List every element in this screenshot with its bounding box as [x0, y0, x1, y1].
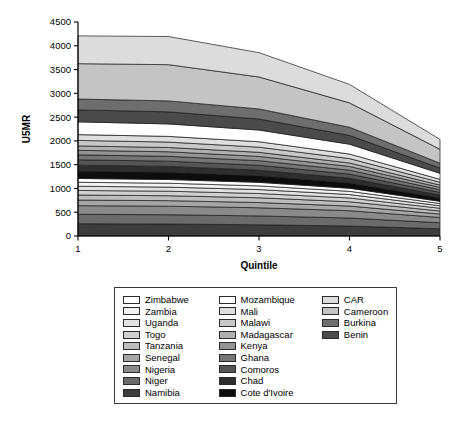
x-axis-title: Quintile — [240, 260, 278, 271]
legend-item-ghana[interactable]: Ghana — [219, 352, 322, 364]
legend-item-cameroon[interactable]: Cameroon — [322, 306, 392, 318]
x-tick-label: 5 — [437, 243, 442, 254]
legend-item-madagascar[interactable]: Madagascar — [219, 329, 322, 341]
legend-swatch-icon — [123, 377, 140, 385]
legend-item-uganda[interactable]: Uganda — [123, 317, 219, 329]
legend-item-burkina[interactable]: Burkina — [322, 317, 392, 329]
chart-page: 0500100015002000250030003500400045001234… — [0, 0, 469, 424]
legend-swatch-icon — [322, 296, 339, 304]
legend-swatch-icon — [219, 296, 236, 304]
y-tick-label: 3000 — [50, 88, 71, 99]
legend-item-label: Zimbabwe — [145, 295, 189, 305]
legend-swatch-icon — [219, 331, 236, 339]
legend-item-label: Cote d'Ivoire — [241, 388, 294, 398]
legend-item-label: Mali — [241, 307, 258, 317]
legend-item-chad[interactable]: Chad — [219, 375, 322, 387]
y-tick-label: 4500 — [50, 16, 71, 27]
legend-swatch-icon — [219, 319, 236, 327]
y-axis-title: U5MR — [21, 114, 32, 143]
legend-item-label: Burkina — [344, 318, 376, 328]
legend-item-label: Cameroon — [344, 307, 388, 317]
legend-item-comoros[interactable]: Comoros — [219, 364, 322, 376]
legend-item-mozambique[interactable]: Mozambique — [219, 294, 322, 306]
legend-swatch-icon — [322, 307, 339, 315]
legend-item-label: Malawi — [241, 318, 271, 328]
legend-columns: ZimbabweZambiaUgandaTogoTanzaniaSenegalN… — [123, 294, 392, 399]
legend-item-mali[interactable]: Mali — [219, 306, 322, 318]
legend-item-label: Senegal — [145, 353, 180, 363]
legend-item-label: Comoros — [241, 365, 280, 375]
chart-container: 0500100015002000250030003500400045001234… — [0, 0, 469, 272]
legend-item-namibia[interactable]: Namibia — [123, 387, 219, 399]
legend-swatch-icon — [123, 319, 140, 327]
legend-item-label: Tanzania — [145, 341, 183, 351]
legend-item-label: Zambia — [145, 307, 177, 317]
legend-swatch-icon — [123, 342, 140, 350]
legend-item-label: Namibia — [145, 388, 180, 398]
y-tick-label: 3500 — [50, 64, 71, 75]
y-tick-label: 2500 — [50, 112, 71, 123]
legend-swatch-icon — [219, 354, 236, 362]
legend-item-malawi[interactable]: Malawi — [219, 317, 322, 329]
legend-item-label: Ghana — [241, 353, 270, 363]
legend-item-label: Nigeria — [145, 365, 175, 375]
legend-swatch-icon — [219, 377, 236, 385]
legend-swatch-icon — [123, 307, 140, 315]
chart-legend: ZimbabweZambiaUgandaTogoTanzaniaSenegalN… — [114, 287, 397, 404]
legend-swatch-icon — [123, 331, 140, 339]
stacked-area-chart: 0500100015002000250030003500400045001234… — [0, 0, 469, 272]
x-tick-label: 4 — [347, 243, 352, 254]
legend-item-label: Niger — [145, 376, 168, 386]
legend-swatch-icon — [219, 307, 236, 315]
legend-item-label: Chad — [241, 376, 264, 386]
y-tick-label: 2000 — [50, 135, 71, 146]
legend-swatch-icon — [322, 331, 339, 339]
legend-item-label: CAR — [344, 295, 364, 305]
legend-swatch-icon — [322, 319, 339, 327]
legend-item-label: Mozambique — [241, 295, 295, 305]
legend-swatch-icon — [123, 296, 140, 304]
legend-item-label: Togo — [145, 330, 166, 340]
y-tick-label: 4000 — [50, 40, 71, 51]
x-tick-label: 2 — [166, 243, 171, 254]
y-tick-label: 0 — [66, 230, 71, 241]
legend-item-togo[interactable]: Togo — [123, 329, 219, 341]
legend-column-3: CARCameroonBurkinaBenin — [322, 294, 392, 399]
legend-swatch-icon — [123, 365, 140, 373]
legend-swatch-icon — [219, 342, 236, 350]
legend-item-tanzania[interactable]: Tanzania — [123, 340, 219, 352]
legend-swatch-icon — [219, 389, 236, 397]
legend-item-label: Kenya — [241, 341, 268, 351]
legend-item-label: Uganda — [145, 318, 178, 328]
area-bands — [78, 36, 440, 236]
legend-column-2: MozambiqueMaliMalawiMadagascarKenyaGhana… — [219, 294, 322, 399]
legend-item-nigeria[interactable]: Nigeria — [123, 364, 219, 376]
y-tick-label: 1500 — [50, 159, 71, 170]
x-tick-label: 1 — [75, 243, 80, 254]
y-tick-label: 500 — [55, 207, 71, 218]
legend-item-zimbabwe[interactable]: Zimbabwe — [123, 294, 219, 306]
y-tick-label: 1000 — [50, 183, 71, 194]
legend-swatch-icon — [219, 365, 236, 373]
legend-item-label: Benin — [344, 330, 368, 340]
legend-swatch-icon — [123, 389, 140, 397]
legend-item-label: Madagascar — [241, 330, 293, 340]
legend-item-senegal[interactable]: Senegal — [123, 352, 219, 364]
legend-item-benin[interactable]: Benin — [322, 329, 392, 341]
legend-column-1: ZimbabweZambiaUgandaTogoTanzaniaSenegalN… — [123, 294, 219, 399]
legend-item-kenya[interactable]: Kenya — [219, 340, 322, 352]
legend-swatch-icon — [123, 354, 140, 362]
x-tick-label: 3 — [256, 243, 261, 254]
legend-item-niger[interactable]: Niger — [123, 375, 219, 387]
legend-item-zambia[interactable]: Zambia — [123, 306, 219, 318]
legend-item-cote-d-ivoire[interactable]: Cote d'Ivoire — [219, 387, 322, 399]
legend-item-car[interactable]: CAR — [322, 294, 392, 306]
